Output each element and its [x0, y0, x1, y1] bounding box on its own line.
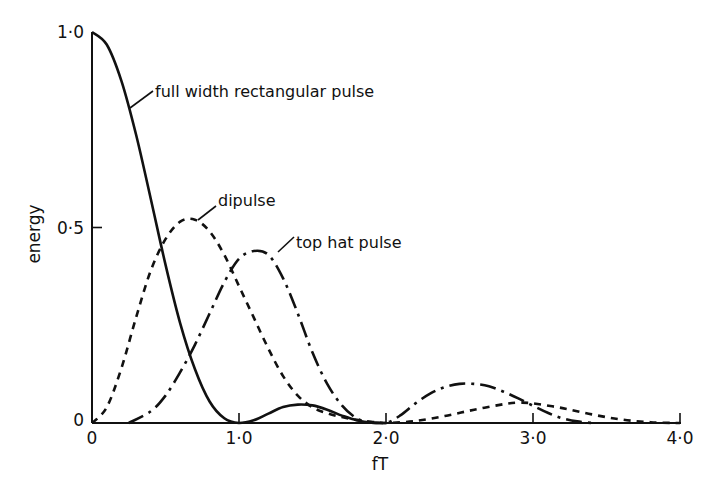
- annotation-label: dipulse: [218, 191, 276, 210]
- energy-spectrum-chart: 01·02·03·04·0 00·51·0 fT energy full wid…: [0, 0, 728, 502]
- x-axis-title: fT: [372, 454, 389, 474]
- y-axis-title: energy: [24, 204, 44, 263]
- annotations: full width rectangular pulsedipulsetop h…: [130, 82, 402, 252]
- y-tick-label: 0·5: [57, 218, 84, 238]
- x-tick-label: 3·0: [519, 428, 546, 448]
- annotation-leader-line: [130, 91, 153, 108]
- x-tick-label: 2·0: [372, 428, 399, 448]
- x-tick-label: 0: [87, 428, 98, 448]
- series-top-hat-pulse: [129, 251, 592, 423]
- y-ticks: 00·51·0: [57, 22, 102, 430]
- y-tick-label: 1·0: [57, 22, 84, 42]
- annotation-leader-line: [198, 206, 216, 220]
- annotation-leader-line: [278, 237, 294, 252]
- x-tick-label: 1·0: [225, 428, 252, 448]
- x-tick-label: 4·0: [666, 428, 693, 448]
- y-tick-label: 0: [73, 410, 84, 430]
- annotation-label: top hat pulse: [296, 233, 402, 252]
- annotation-label: full width rectangular pulse: [155, 82, 374, 101]
- x-ticks: 01·02·03·04·0: [87, 413, 694, 448]
